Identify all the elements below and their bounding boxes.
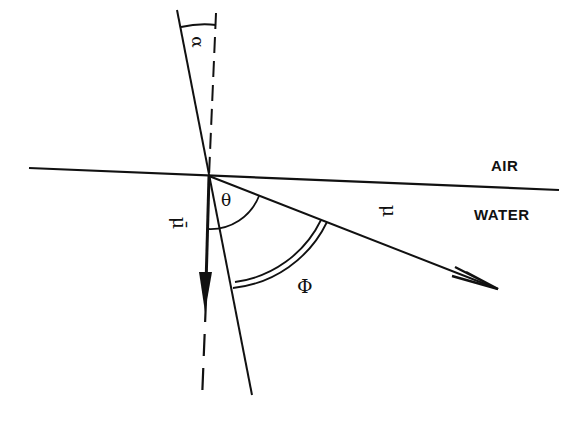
- mu-label: μ: [379, 205, 401, 217]
- air-label: AIR: [491, 157, 518, 174]
- mu-bar-label: μ̄: [169, 217, 191, 229]
- mu-bar-arrowhead-icon: [199, 272, 212, 312]
- dashed-normal-line-lower: [202, 300, 206, 400]
- mu-vector: [209, 176, 498, 289]
- mu-arrowhead-icon: [452, 267, 498, 289]
- water-label: WATER: [474, 206, 530, 223]
- alpha-label: α: [188, 36, 208, 47]
- phi-label: Φ: [297, 275, 313, 297]
- alpha-arc: [181, 24, 216, 27]
- air-water-interface: [29, 168, 559, 190]
- theta-label: θ: [221, 190, 231, 210]
- dashed-normal-line-upper: [209, 13, 216, 176]
- mu-bar-vector: [206, 176, 209, 285]
- phi-arc-outer: [233, 222, 327, 288]
